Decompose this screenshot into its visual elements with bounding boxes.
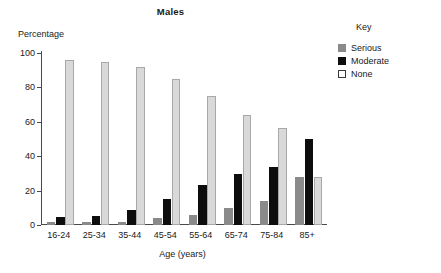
legend-item-serious[interactable]: Serious: [338, 42, 438, 54]
bar-moderate-16-24: [56, 217, 65, 225]
bar-moderate-45-54: [163, 199, 172, 225]
bar-moderate-75-84: [269, 167, 278, 225]
legend-item-moderate[interactable]: Moderate: [338, 55, 438, 67]
bar-none-55-64: [207, 96, 216, 225]
bar-none-65-74: [243, 115, 252, 225]
bar-group: 35-44: [112, 53, 148, 225]
legend: Key SeriousModerateNone: [338, 22, 438, 81]
bar-none-45-54: [172, 79, 181, 225]
x-axis-tick-label: 25-34: [77, 230, 113, 240]
bar-moderate-65-74: [234, 174, 243, 225]
y-axis-label: Percentage: [18, 29, 64, 39]
x-axis-tick-label: 55-64: [183, 230, 219, 240]
bar-moderate-55-64: [198, 185, 207, 225]
bar-group: 55-64: [183, 53, 219, 225]
bar-none-16-24: [65, 60, 74, 225]
bar-none-25-34: [101, 62, 110, 225]
legend-swatch-icon: [338, 70, 346, 78]
y-axis-tick-label: 80: [25, 82, 35, 92]
y-axis-tick-label: 60: [25, 117, 35, 127]
legend-item-none[interactable]: None: [338, 68, 438, 80]
bar-moderate-85plus: [305, 139, 314, 225]
bar-serious-65-74: [224, 208, 233, 225]
plot-area: 02040608010016-2425-3435-4445-5455-6465-…: [41, 53, 325, 225]
bar-group: 85+: [290, 53, 326, 225]
x-axis-tick-label: 85+: [290, 230, 326, 240]
bar-moderate-35-44: [127, 210, 136, 225]
bar-serious-45-54: [153, 218, 162, 225]
bar-group: 65-74: [219, 53, 255, 225]
y-axis-tick-label: 100: [20, 48, 35, 58]
y-axis-tick-label: 20: [25, 186, 35, 196]
y-axis-tick-label: 40: [25, 151, 35, 161]
bar-serious-75-84: [260, 201, 269, 225]
bar-serious-85plus: [295, 177, 304, 225]
bar-group: 45-54: [148, 53, 184, 225]
bar-serious-55-64: [189, 215, 198, 225]
legend-item-label: None: [351, 70, 373, 79]
bar-moderate-25-34: [92, 216, 101, 225]
x-axis-tick-label: 16-24: [41, 230, 77, 240]
legend-item-label: Serious: [351, 44, 382, 53]
page-title: Males: [0, 6, 341, 17]
bar-chart: Males Percentage 02040608010016-2425-343…: [0, 0, 441, 273]
y-axis-tick: [37, 225, 41, 226]
bar-group: 75-84: [254, 53, 290, 225]
bar-none-35-44: [136, 67, 145, 225]
bar-group: 25-34: [77, 53, 113, 225]
bar-serious-25-34: [82, 222, 91, 225]
bar-serious-35-44: [118, 222, 127, 225]
bar-serious-16-24: [47, 222, 56, 225]
bar-group: 16-24: [41, 53, 77, 225]
legend-title: Key: [356, 22, 438, 32]
x-axis-label: Age (years): [40, 249, 325, 259]
x-axis-tick-label: 75-84: [254, 230, 290, 240]
legend-swatch-icon: [338, 57, 346, 65]
legend-swatch-icon: [338, 44, 346, 52]
x-axis-tick-label: 45-54: [148, 230, 184, 240]
bar-none-75-84: [278, 128, 287, 225]
x-axis-tick-label: 65-74: [219, 230, 255, 240]
y-axis-tick-label: 0: [30, 220, 35, 230]
x-axis-tick-label: 35-44: [112, 230, 148, 240]
legend-item-label: Moderate: [351, 57, 389, 66]
bar-none-85plus: [314, 177, 323, 225]
